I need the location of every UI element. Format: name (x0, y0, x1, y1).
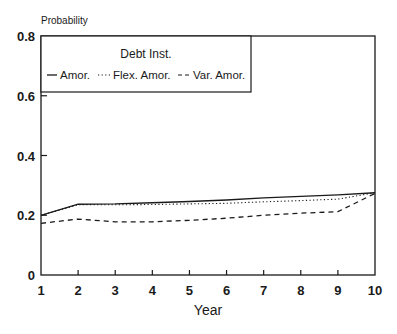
x-tick-label: 2 (74, 283, 81, 298)
y-tick-label: 0 (28, 268, 35, 283)
x-axis-title: Year (194, 302, 223, 318)
y-tick-label: 0.8 (17, 29, 35, 44)
x-tick-label: 4 (149, 283, 157, 298)
line-chart: Probability 00.20.40.60.8 12345678910 De… (0, 0, 397, 334)
x-tick-label: 6 (223, 283, 230, 298)
series-var-amor (41, 193, 375, 223)
x-tick-label: 1 (37, 283, 44, 298)
y-tick-label: 0.2 (17, 208, 35, 223)
legend-box (41, 36, 251, 92)
series-amor (41, 193, 375, 216)
legend-label-var-amor: Var. Amor. (193, 69, 245, 81)
x-axis: 12345678910 (37, 270, 382, 298)
legend-label-flex-amor: Flex. Amor. (113, 69, 171, 81)
legend-label-amor: Amor. (60, 69, 90, 81)
series-lines (41, 193, 375, 224)
x-tick-label: 8 (297, 283, 304, 298)
x-tick-label: 3 (112, 283, 119, 298)
x-tick-label: 10 (368, 283, 382, 298)
x-tick-label: 7 (260, 283, 267, 298)
legend: Debt Inst. Amor. Flex. Amor. Var. Amor. (41, 36, 251, 92)
y-tick-label: 0.4 (17, 149, 36, 164)
x-tick-label: 5 (186, 283, 193, 298)
legend-title: Debt Inst. (120, 47, 171, 61)
y-tick-label: 0.6 (17, 89, 35, 104)
x-tick-label: 9 (334, 283, 341, 298)
y-axis-title: Probability (41, 15, 88, 26)
